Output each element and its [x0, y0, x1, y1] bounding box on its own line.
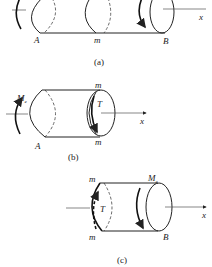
x-axis-label: x [198, 12, 203, 22]
label-t: T [100, 204, 106, 214]
label-m-top: m [89, 174, 96, 184]
label-m-top: m [95, 80, 102, 90]
x-axis-label: x [201, 210, 206, 220]
label-m-bottom: m [95, 137, 102, 147]
label-m-bottom: m [89, 232, 96, 242]
panel-a: x A m B (a) [12, 0, 206, 67]
moment-arrow-left [16, 0, 21, 29]
shaft-end-b [150, 0, 174, 33]
section-m-front [85, 0, 96, 33]
caption-c: (c) [117, 255, 127, 265]
label-a: A [34, 141, 41, 151]
label-me: Me [147, 173, 159, 184]
label-b: B [163, 232, 169, 242]
shaft-end-a-hidden [44, 0, 56, 33]
shaft-end-a [31, 0, 42, 33]
section-mm-hidden [104, 183, 112, 231]
moment-arrow-me [15, 98, 22, 134]
moment-arrow-me [137, 188, 143, 228]
caption-b: (b) [68, 152, 79, 162]
label-me: Me [16, 93, 28, 104]
x-axis-label: x [139, 116, 144, 126]
label-b: B [163, 36, 169, 46]
panel-c: T x Me m m B (c) [66, 173, 206, 265]
caption-a: (a) [94, 57, 104, 67]
panel-b: Me T x m m A (b) [6, 80, 146, 162]
label-a: A [33, 35, 40, 45]
torsion-shaft-diagram: x A m B (a) Me T x m m A (b) T [0, 0, 212, 267]
section-m-hidden [104, 0, 111, 33]
shaft-end-a-hidden [45, 90, 56, 137]
moment-arrow-right [139, 0, 145, 27]
shaft-end-a [30, 90, 45, 137]
label-t: T [97, 99, 103, 109]
label-m: m [94, 35, 101, 45]
